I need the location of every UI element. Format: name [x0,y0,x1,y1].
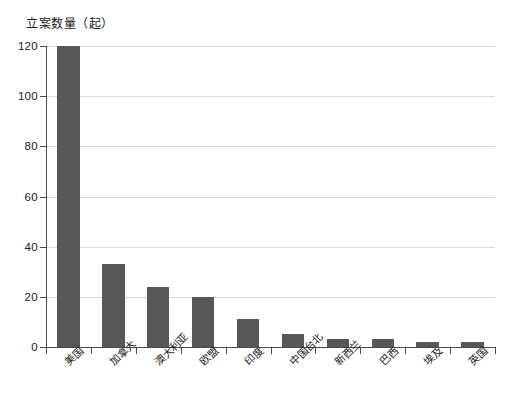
y-axis-tick-label: 60 [4,191,38,203]
plot-area [46,46,495,347]
y-axis-tick-label: 80 [4,140,38,152]
bar[interactable] [192,297,214,347]
x-axis-tick [405,348,406,354]
y-axis-tick-labels: 020406080100120 [0,0,38,417]
x-axis-tick [271,348,272,354]
y-axis-tick [40,247,46,248]
y-axis-tick [40,146,46,147]
bar[interactable] [57,46,79,347]
bar[interactable] [102,264,124,347]
bar-chart: 立案数量（起） 020406080100120 美国加拿大澳大利亚欧盟印度中国台… [0,0,515,417]
y-axis-tick [40,46,46,47]
y-axis-title: 立案数量（起） [26,14,114,31]
x-axis-tick [91,348,92,354]
y-axis-tick-label: 100 [4,90,38,102]
y-axis-tick-label: 40 [4,241,38,253]
bar[interactable] [237,319,259,347]
x-axis-tick [495,348,496,354]
gridline [46,46,495,47]
y-axis-tick-label: 0 [4,341,38,353]
gridline [46,197,495,198]
y-axis-tick-label: 120 [4,40,38,52]
y-axis-tick [40,297,46,298]
bar[interactable] [147,287,169,347]
x-axis-tick [226,348,227,354]
gridline [46,247,495,248]
y-axis-tick [40,96,46,97]
y-axis-tick [40,197,46,198]
gridline [46,146,495,147]
gridline [46,96,495,97]
x-axis-tick [450,348,451,354]
x-axis-tick [46,348,47,354]
y-axis-line [46,46,47,348]
y-axis-tick-label: 20 [4,291,38,303]
